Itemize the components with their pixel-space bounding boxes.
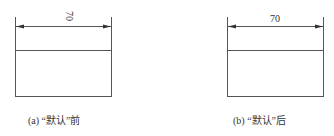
caption-b: (b) “默认”后 bbox=[233, 112, 286, 127]
arrowhead-left-icon bbox=[228, 25, 236, 29]
rectangle bbox=[16, 51, 112, 97]
rectangle bbox=[228, 51, 324, 97]
dimension-label-b: 70 bbox=[270, 13, 280, 24]
arrowhead-right-icon bbox=[315, 25, 323, 29]
dimension-label-a: 70 bbox=[64, 11, 75, 21]
figure-b bbox=[228, 17, 324, 97]
arrowhead-left-icon bbox=[16, 25, 24, 29]
caption-a: (a) “默认”前 bbox=[28, 112, 80, 127]
figure-a bbox=[16, 17, 112, 97]
arrowhead-right-icon bbox=[103, 25, 111, 29]
